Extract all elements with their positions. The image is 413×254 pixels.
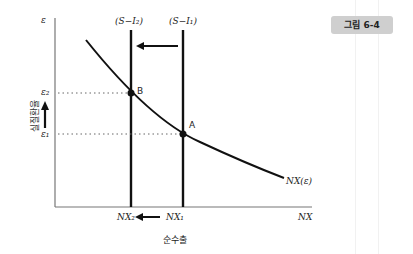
arrow-up-icon (41, 101, 49, 110)
epsilon2-label: ε₂ (41, 87, 49, 97)
curve-label: NX(ε) (286, 176, 312, 186)
s-i2-label: (S−I₂) (115, 16, 143, 26)
point-b (128, 90, 135, 97)
x-axis-symbol: NX (298, 212, 312, 222)
arrow-head-icon (136, 42, 144, 50)
point-b-label: B (137, 86, 143, 96)
diagram-canvas (0, 0, 413, 254)
nx1-label: NX₁ (166, 212, 184, 222)
point-a-label: A (189, 120, 195, 130)
arrow-left-icon (135, 213, 143, 221)
nx2-label: NX₂ (117, 212, 135, 222)
point-a (180, 131, 187, 138)
s-i1-label: (S−I₁) (169, 16, 197, 26)
nx-curve (86, 40, 284, 178)
epsilon1-label: ε₁ (41, 129, 49, 139)
y-axis-title: 실질환율 (28, 92, 40, 132)
y-axis-symbol: ε (41, 15, 46, 25)
figure-6-4: 그림 6-4 ε NX (S−I₂) (S−I₁) B A ε₂ ε₁ NX₂ … (0, 0, 413, 254)
x-axis-title: 순수출 (163, 233, 187, 246)
